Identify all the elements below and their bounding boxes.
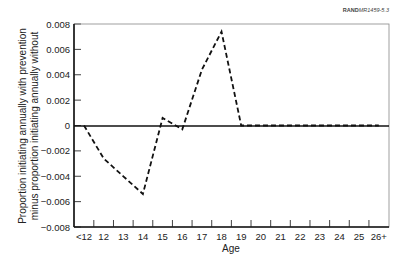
x-tick-label: 17 bbox=[197, 231, 208, 242]
y-tick-label: 0.004 bbox=[46, 69, 70, 80]
y-tick-label: −0.006 bbox=[41, 196, 70, 207]
x-tick-label: 18 bbox=[216, 231, 227, 242]
y-tick-label: 0 bbox=[65, 120, 70, 131]
y-tick-label: 0.002 bbox=[46, 95, 70, 106]
line-chart: RANDMR1459-5.3 Proportion initiating ann… bbox=[0, 0, 403, 272]
x-tick-label: 15 bbox=[157, 231, 168, 242]
y-axis-title: Proportion initiating annually with prev… bbox=[17, 28, 40, 224]
data-series-line bbox=[84, 32, 379, 194]
x-tick-label: 12 bbox=[98, 231, 109, 242]
x-tick-label: 23 bbox=[315, 231, 326, 242]
y-tick-label: 0.008 bbox=[46, 19, 70, 30]
x-tick-label: 21 bbox=[275, 231, 286, 242]
y-tick-label: −0.008 bbox=[41, 222, 70, 233]
x-axis-title: Age bbox=[222, 243, 240, 254]
x-tick-label: 13 bbox=[118, 231, 129, 242]
y-tick-label: −0.002 bbox=[41, 145, 70, 156]
x-tick-label: 26+ bbox=[371, 231, 388, 242]
x-tick-label: 14 bbox=[138, 231, 149, 242]
y-tick-label: 0.006 bbox=[46, 44, 70, 55]
x-tick-label: 19 bbox=[236, 231, 247, 242]
x-tick-label: <12 bbox=[76, 231, 92, 242]
y-axis-title-line-1: Proportion initiating annually with prev… bbox=[17, 28, 28, 224]
x-tick-label: 25 bbox=[354, 231, 365, 242]
x-tick-label: 22 bbox=[295, 231, 306, 242]
x-tick-label: 16 bbox=[177, 231, 188, 242]
x-tick-label: 20 bbox=[256, 231, 267, 242]
source-label: RANDMR1459-5.3 bbox=[343, 7, 390, 13]
y-axis-title-line-2: minus proportion initiating annually wit… bbox=[29, 32, 40, 221]
y-tick-label: −0.004 bbox=[41, 171, 70, 182]
x-tick-label: 24 bbox=[334, 231, 345, 242]
x-axis: <12121314151617181920212223242526+ bbox=[76, 220, 387, 242]
